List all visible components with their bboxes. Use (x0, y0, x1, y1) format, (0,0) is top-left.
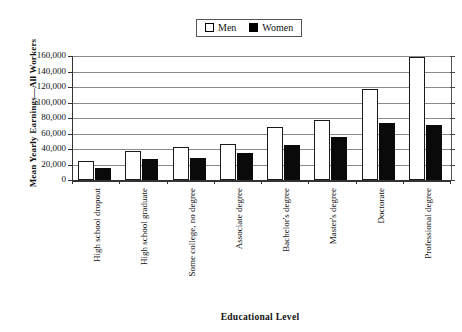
bar-men (409, 57, 425, 180)
y-axis-tick-label: 40,000 (4, 143, 66, 153)
y-axis-tick-label: 0 (4, 174, 66, 184)
y-axis-tick-label: 100,000 (4, 97, 66, 107)
y-axis-tick-mark-right (450, 56, 455, 57)
bar-women (426, 125, 442, 180)
x-axis-category-label: Professional degree (423, 188, 433, 259)
bar-groups (72, 56, 450, 180)
x-axis-tick-mark (308, 180, 309, 184)
y-axis-tick-mark-right (450, 103, 455, 104)
x-axis-category-label: High school dropout (92, 188, 102, 262)
bar-men (220, 144, 236, 180)
y-axis-tick-label: 140,000 (4, 66, 66, 76)
x-axis-tick-mark (356, 180, 357, 184)
bar-men (78, 161, 94, 180)
y-axis-tick-mark-right (450, 165, 455, 166)
bar-women (237, 153, 253, 180)
bar-men (314, 120, 330, 180)
bar-group (308, 56, 355, 180)
legend-label-women: Women (262, 22, 293, 33)
x-axis-tick-mark (261, 180, 262, 184)
y-axis-tick-mark-right (450, 87, 455, 88)
x-axis-tick-mark (167, 180, 168, 184)
x-axis-category-label: Master's degree (328, 188, 338, 244)
x-axis-category-label: Associate degree (234, 188, 244, 249)
x-axis-category-label: Some college, no degree (187, 188, 197, 276)
bar-group (72, 56, 119, 180)
chart-legend: Men Women (196, 19, 302, 37)
legend-label-men: Men (218, 22, 236, 33)
bar-women (379, 123, 395, 180)
y-axis-tick-mark-right (450, 134, 455, 135)
y-axis-tick-label: 60,000 (4, 128, 66, 138)
bar-chart: Mean Yearly Earnings—All Workers Men Wom… (0, 0, 462, 332)
y-axis-tick-label: 120,000 (4, 81, 66, 91)
x-axis-tick-mark (450, 180, 451, 184)
bar-men (362, 89, 378, 180)
bar-group (119, 56, 166, 180)
bar-women (284, 145, 300, 180)
x-axis-tick-mark (72, 180, 73, 184)
x-axis-category-label: Doctorate (376, 188, 386, 223)
bar-group (214, 56, 261, 180)
bar-group (167, 56, 214, 180)
x-axis-tick-mark (403, 180, 404, 184)
bar-women (142, 159, 158, 180)
x-axis-tick-mark (119, 180, 120, 184)
x-axis-category-label: High school graduate (139, 188, 149, 265)
y-axis-tick-label: 20,000 (4, 159, 66, 169)
y-axis-tick-mark-right (450, 149, 455, 150)
y-axis-tick-mark-right (450, 72, 455, 73)
bar-men (267, 127, 283, 180)
bar-group (261, 56, 308, 180)
open-square-swatch-icon (205, 23, 214, 32)
bar-group (403, 56, 450, 180)
bar-women (331, 137, 347, 180)
bar-men (125, 151, 141, 180)
y-axis-tick-label: 160,000 (4, 50, 66, 60)
y-axis-tick-mark-right (450, 118, 455, 119)
x-axis-category-label: Bachelor's degree (281, 188, 291, 252)
legend-item-men: Men (205, 22, 236, 33)
bar-women (190, 158, 206, 180)
x-axis-tick-mark (214, 180, 215, 184)
bar-women (95, 168, 111, 180)
filled-square-swatch-icon (249, 23, 258, 32)
y-axis-tick-label: 80,000 (4, 112, 66, 122)
bar-group (356, 56, 403, 180)
legend-item-women: Women (249, 22, 293, 33)
x-axis-title: Educational Level (70, 312, 450, 322)
bar-men (173, 147, 189, 180)
